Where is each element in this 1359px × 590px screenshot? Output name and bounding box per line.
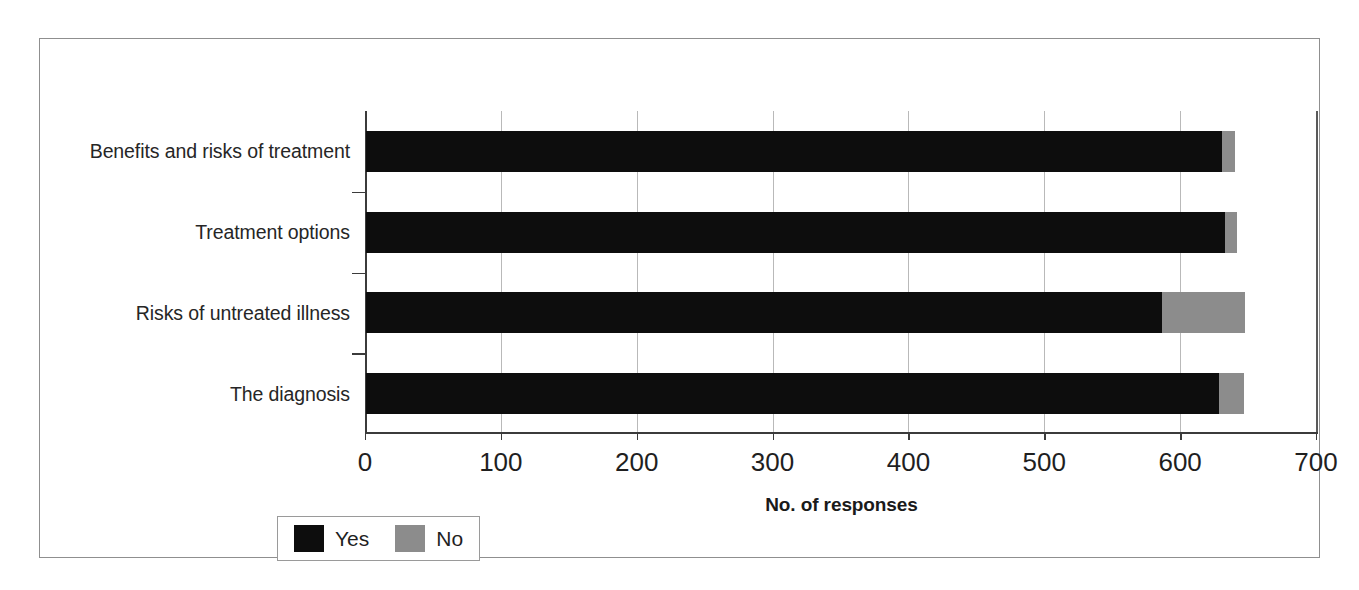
- x-axis-tick-label: 0: [358, 447, 372, 478]
- bar-segment-no: [1162, 292, 1245, 333]
- x-axis-spine: [365, 432, 1318, 434]
- x-axis-tick: [1180, 432, 1181, 440]
- category-axis-labels: Benefits and risks of treatmentTreatment…: [80, 111, 350, 434]
- y-axis-tick: [352, 353, 365, 355]
- category-label: Risks of untreated illness: [136, 302, 350, 324]
- bar-segment-no: [1222, 131, 1236, 172]
- category-label: Benefits and risks of treatment: [90, 140, 350, 162]
- bar-group: [366, 292, 1317, 333]
- x-axis-tick: [1316, 432, 1317, 440]
- legend-label: No: [436, 527, 463, 551]
- legend-item: Yes: [294, 525, 369, 552]
- bar-segment-yes: [366, 131, 1222, 172]
- x-axis-tick: [501, 432, 502, 440]
- x-axis-tick-label: 600: [1158, 447, 1201, 478]
- bar-group: [366, 212, 1317, 253]
- bar-segment-yes: [366, 292, 1162, 333]
- x-axis-title: No. of responses: [365, 494, 1318, 516]
- bar-group: [366, 373, 1317, 414]
- x-axis-tick-label: 200: [615, 447, 658, 478]
- x-axis-tick: [908, 432, 909, 440]
- category-label: The diagnosis: [230, 383, 350, 405]
- legend-swatch: [294, 525, 324, 552]
- x-axis-tick-label: 100: [479, 447, 522, 478]
- bar-segment-no: [1219, 373, 1243, 414]
- bar-segment-yes: [366, 212, 1225, 253]
- bar-segment-no: [1225, 212, 1237, 253]
- y-axis-tick: [352, 192, 365, 194]
- x-axis-tick: [637, 432, 638, 440]
- x-axis-tick: [365, 432, 366, 440]
- legend-swatch: [395, 525, 425, 552]
- y-axis-tick: [352, 273, 365, 275]
- x-axis-tick-label: 300: [751, 447, 794, 478]
- bar-segment-yes: [366, 373, 1219, 414]
- plot-area: [365, 111, 1318, 434]
- x-axis-tick-label: 400: [887, 447, 930, 478]
- x-axis-tick: [773, 432, 774, 440]
- legend-item: No: [395, 525, 463, 552]
- x-axis-tick-label: 500: [1023, 447, 1066, 478]
- x-axis-tick-label: 700: [1294, 447, 1337, 478]
- x-axis-tick: [1044, 432, 1045, 440]
- chart-frame: Benefits and risks of treatmentTreatment…: [39, 38, 1320, 558]
- chart-legend: YesNo: [277, 516, 480, 561]
- legend-label: Yes: [335, 527, 369, 551]
- category-label: Treatment options: [195, 221, 350, 243]
- figure: Benefits and risks of treatmentTreatment…: [0, 0, 1359, 590]
- bar-group: [366, 131, 1317, 172]
